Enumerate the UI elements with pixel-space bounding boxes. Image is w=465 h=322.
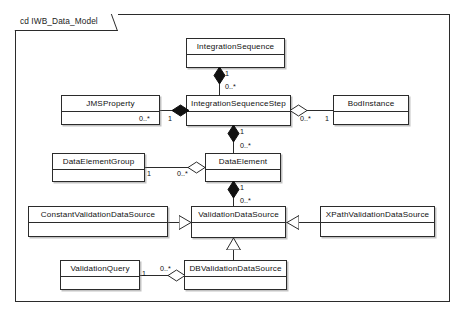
generalization-arrow-xpath-vds bbox=[286, 215, 299, 230]
class-data-element-group[interactable]: DataElementGroup bbox=[52, 153, 145, 182]
class-constant-validation-data-source[interactable]: ConstantValidationDataSource bbox=[28, 206, 168, 237]
class-attributes-db-validation-data-source bbox=[185, 277, 286, 290]
aggregation-diamond-step-bod bbox=[290, 104, 307, 117]
composition-diamond-step-de bbox=[227, 125, 240, 142]
multiplicity-deg-de-near-deg: 1 bbox=[147, 169, 151, 178]
class-attributes-integration-sequence bbox=[187, 55, 284, 68]
class-data-element[interactable]: DataElement bbox=[205, 153, 281, 182]
aggregation-diamond-vq-db bbox=[168, 269, 185, 282]
class-db-validation-data-source[interactable]: DBValidationDataSource bbox=[184, 260, 287, 290]
class-name-data-element: DataElement bbox=[206, 154, 280, 170]
class-name-xpath-validation-data-source: XPathValidationDataSource bbox=[321, 207, 434, 223]
class-attributes-data-element bbox=[206, 170, 280, 183]
multiplicity-step-bod-near-bod: 1 bbox=[325, 114, 329, 123]
multiplicity-de-vds-near-de: 1 bbox=[240, 183, 244, 192]
composition-diamond-seq-step bbox=[213, 67, 226, 84]
class-attributes-validation-data-source bbox=[192, 223, 285, 236]
class-name-constant-validation-data-source: ConstantValidationDataSource bbox=[29, 207, 167, 223]
class-integration-sequence[interactable]: IntegrationSequence bbox=[186, 38, 285, 68]
composition-diamond-de-vds bbox=[227, 181, 240, 198]
class-name-data-element-group: DataElementGroup bbox=[53, 154, 144, 170]
multiplicity-vq-db-near-vq: 1 bbox=[142, 269, 146, 278]
class-name-integration-sequence-step: IntegrationSequenceStep bbox=[187, 96, 290, 112]
class-validation-data-source[interactable]: ValidationDataSource bbox=[191, 206, 286, 238]
class-name-validation-data-source: ValidationDataSource bbox=[192, 207, 285, 223]
multiplicity-seq-step-near-step: 0..* bbox=[225, 82, 236, 91]
class-attributes-xpath-validation-data-source bbox=[321, 223, 434, 236]
class-attributes-validation-query bbox=[61, 277, 139, 290]
class-attributes-constant-validation-data-source bbox=[29, 223, 167, 236]
uml-class-diagram-canvas: cd IWB_Data_Model bbox=[0, 0, 465, 322]
class-name-jms-property: JMSProperty bbox=[62, 96, 159, 112]
class-attributes-bod-instance bbox=[334, 112, 408, 125]
class-attributes-integration-sequence-step bbox=[187, 112, 290, 125]
multiplicity-step-de-near-step: 1 bbox=[240, 127, 244, 136]
class-integration-sequence-step[interactable]: IntegrationSequenceStep bbox=[186, 95, 291, 126]
class-validation-query[interactable]: ValidationQuery bbox=[60, 260, 140, 290]
diagram-title: cd IWB_Data_Model bbox=[20, 16, 98, 26]
class-name-bod-instance: BodInstance bbox=[334, 96, 408, 112]
class-name-db-validation-data-source: DBValidationDataSource bbox=[185, 261, 286, 277]
class-name-integration-sequence: IntegrationSequence bbox=[187, 39, 284, 55]
class-attributes-data-element-group bbox=[53, 170, 144, 183]
generalization-arrow-db-vds bbox=[226, 237, 241, 250]
multiplicity-step-de-near-de: 0..* bbox=[240, 141, 251, 150]
class-bod-instance[interactable]: BodInstance bbox=[333, 95, 409, 125]
diagram-frame-tab: cd IWB_Data_Model bbox=[15, 14, 118, 31]
class-xpath-validation-data-source[interactable]: XPathValidationDataSource bbox=[320, 206, 435, 237]
composition-diamond-step-jms bbox=[172, 104, 189, 117]
class-name-validation-query: ValidationQuery bbox=[61, 261, 139, 277]
multiplicity-deg-de-near-de: 0..* bbox=[177, 169, 188, 178]
multiplicity-de-vds-near-vds: 0..* bbox=[240, 196, 251, 205]
multiplicity-step-jms-near-jms: 0..* bbox=[139, 114, 150, 123]
aggregation-diamond-deg-de bbox=[188, 161, 205, 174]
generalization-arrow-const-vds bbox=[179, 215, 192, 230]
